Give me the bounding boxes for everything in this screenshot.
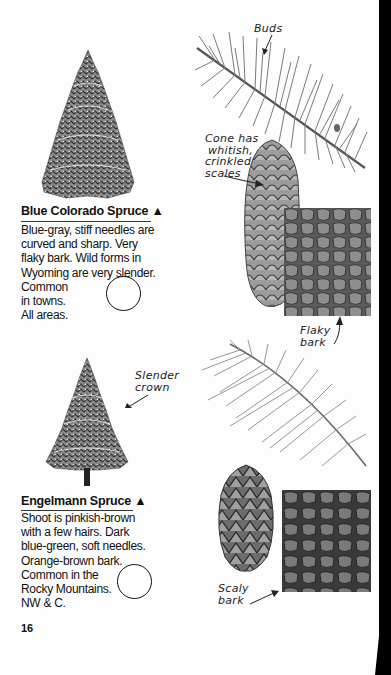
label-cone: Cone has whitish, crinkled scales	[205, 133, 259, 179]
book-page: Blue Colorado Spruce ▲ Blue-gray, stiff …	[0, 0, 391, 675]
tick-box[interactable]	[106, 276, 141, 311]
arrow-icon	[222, 174, 266, 190]
spruce-tree-icon	[38, 50, 138, 200]
triangle-icon: ▲	[134, 494, 146, 508]
arrow-icon	[260, 33, 274, 57]
needle-twig-icon	[200, 340, 375, 475]
species-heading: Engelmann Spruce ▲	[21, 494, 146, 508]
arrow-icon	[248, 588, 282, 606]
bark-icon	[282, 490, 371, 592]
bark-icon	[284, 208, 371, 316]
arrow-icon	[124, 393, 150, 409]
cone-icon	[215, 465, 277, 573]
species-description: Blue-gray, stiff needles are curved and …	[21, 223, 155, 322]
species-heading: Blue Colorado Spruce ▲	[21, 204, 164, 218]
label-slender-crown: Slender crown	[135, 370, 179, 394]
page-edge-shadow	[375, 610, 391, 675]
label-scaly-bark: Scaly bark	[218, 583, 249, 607]
slender-spruce-tree-icon	[42, 358, 132, 488]
tick-box[interactable]	[117, 564, 152, 599]
heading-divider	[21, 221, 151, 222]
page-number: 16	[21, 622, 33, 634]
page-edge-shadow	[379, 0, 391, 675]
triangle-icon: ▲	[152, 204, 164, 218]
